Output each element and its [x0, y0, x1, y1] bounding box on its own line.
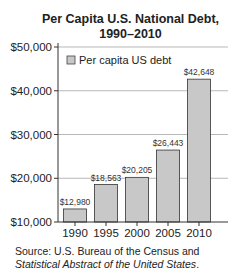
- y-tick-label: $10,000: [10, 216, 52, 228]
- data-label: $42,648: [184, 67, 215, 77]
- source-publication: Statistical Abstract of the United State…: [15, 258, 196, 270]
- bar-1990: [64, 209, 87, 222]
- data-label: $26,443: [153, 138, 184, 148]
- x-tick-label: 2010: [186, 227, 212, 239]
- bar-chart: $10,000$20,000$30,000$40,000$50,000$12,9…: [0, 0, 243, 278]
- data-label: $18,563: [91, 173, 122, 183]
- bar-1995: [95, 185, 118, 222]
- bar-2010: [188, 79, 211, 222]
- x-tick-label: 1995: [93, 227, 119, 239]
- y-tick-label: $40,000: [10, 85, 52, 97]
- data-label: $12,980: [60, 197, 91, 207]
- legend-label: Per capita US debt: [79, 54, 171, 66]
- x-tick-label: 2005: [155, 227, 181, 239]
- bar-2000: [126, 177, 149, 222]
- source-note: Source: U.S. Bureau of the Census and St…: [15, 245, 240, 271]
- y-tick-label: $50,000: [10, 41, 52, 53]
- legend-swatch: [67, 56, 75, 64]
- y-tick-label: $30,000: [10, 129, 52, 141]
- source-text: Source: U.S. Bureau of the Census and: [15, 245, 199, 257]
- y-tick-label: $20,000: [10, 172, 52, 184]
- x-tick-label: 1990: [62, 227, 88, 239]
- data-label: $20,205: [122, 165, 153, 175]
- bar-2005: [157, 150, 180, 222]
- x-tick-label: 2000: [124, 227, 150, 239]
- source-suffix: .: [196, 258, 199, 270]
